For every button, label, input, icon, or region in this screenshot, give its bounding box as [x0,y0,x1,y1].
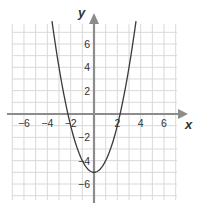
x-axis-label: x [184,117,193,132]
coordinate-plane: −6−4−2246−6−4−2246 x y [0,0,197,213]
x-tick-label: 2 [114,117,120,129]
x-tick-label: −4 [41,117,53,129]
y-tick-label: 2 [84,85,90,97]
y-axis-label: y [77,5,86,20]
y-tick-label: 6 [84,38,90,50]
y-tick-label: −6 [78,178,90,190]
y-tick-label: 4 [84,61,90,73]
y-axis-arrow-icon [89,13,99,24]
x-tick-label: 4 [138,117,144,129]
x-tick-label: −6 [18,117,30,129]
x-tick-label: −2 [65,117,77,129]
x-tick-label: 6 [161,117,167,129]
axes [7,13,188,203]
y-tick-label: −4 [78,155,90,167]
y-tick-label: −2 [78,131,90,143]
